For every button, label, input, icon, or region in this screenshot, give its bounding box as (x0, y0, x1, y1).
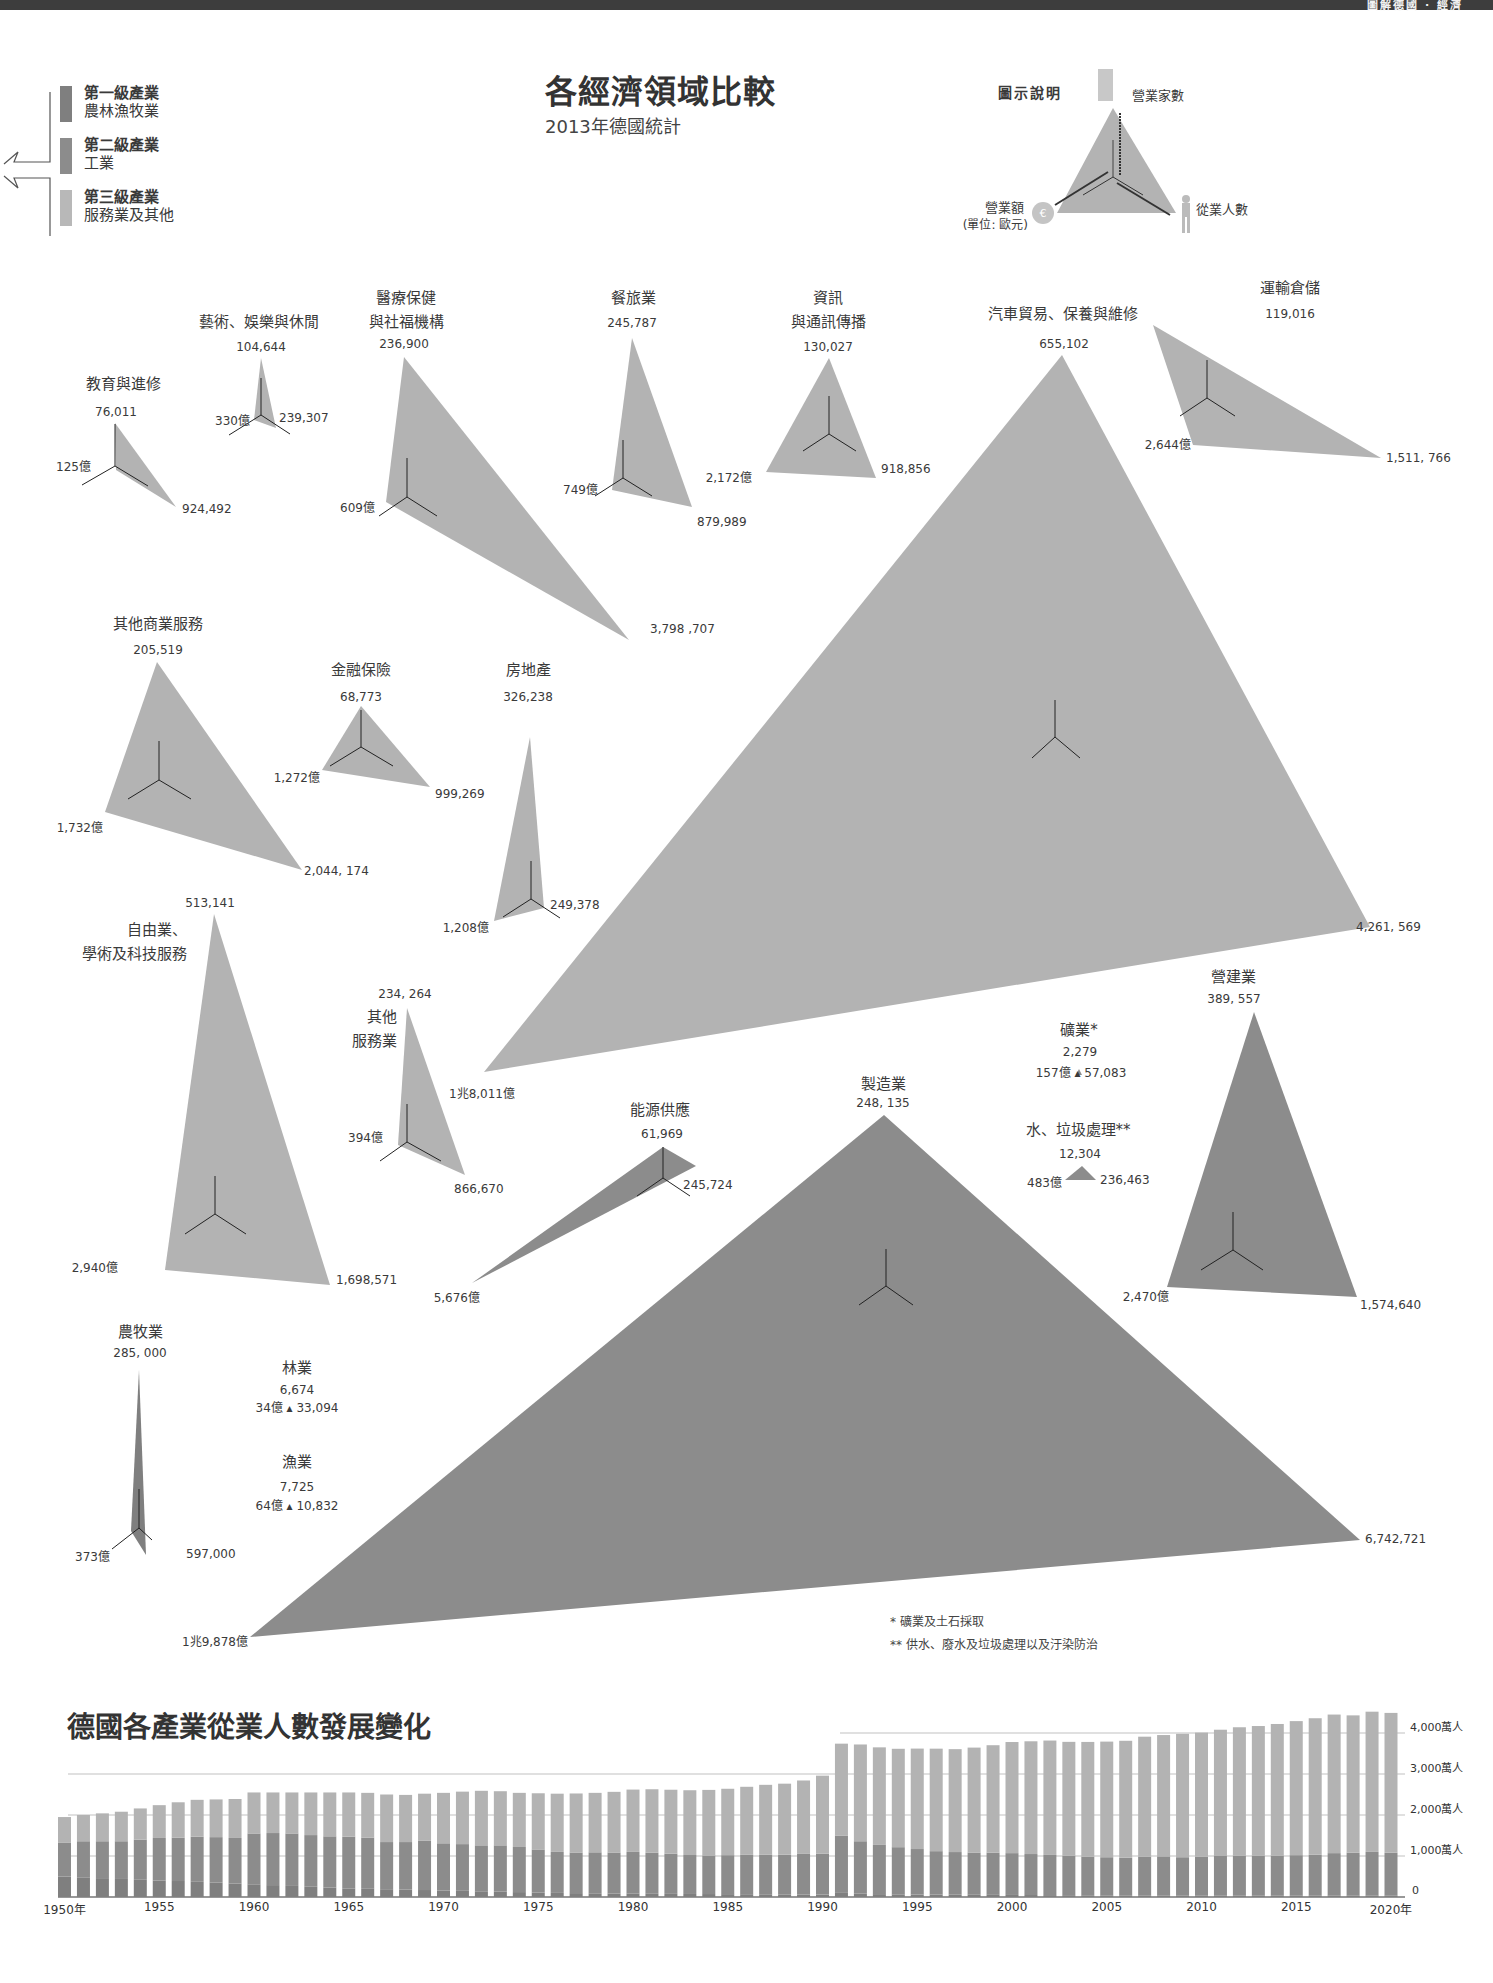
bar-segment (1328, 1715, 1341, 1854)
bar-segment (835, 1744, 848, 1836)
bar-segment (58, 1842, 71, 1876)
bar-segment (702, 1894, 715, 1897)
bar-segment (1290, 1721, 1303, 1855)
bar-segment (172, 1838, 185, 1881)
x-tick-label: 1965 (333, 1900, 364, 1914)
bar-segment (77, 1815, 90, 1841)
bar-segment (342, 1888, 355, 1897)
bar-segment (551, 1794, 564, 1852)
bar-segment (608, 1853, 621, 1894)
bar-segment (437, 1890, 450, 1897)
bar-segment (248, 1833, 261, 1884)
bar-segment (627, 1852, 640, 1894)
bar-segment (266, 1885, 279, 1897)
bar-segment (248, 1792, 261, 1833)
bar-segment (1138, 1737, 1151, 1857)
bar-segment (285, 1886, 298, 1897)
x-tick-label: 1985 (712, 1900, 743, 1914)
bar-segment (437, 1793, 450, 1843)
bar-segment (645, 1853, 658, 1894)
bar-segment (475, 1891, 488, 1897)
bar-segment (1214, 1730, 1227, 1856)
bar-segment (513, 1793, 526, 1847)
bar-segment (456, 1792, 469, 1844)
bar-segment (380, 1889, 393, 1897)
bar-segment (968, 1895, 981, 1897)
bar-segment (456, 1844, 469, 1891)
bar-segment (1347, 1895, 1360, 1897)
bar-segment (418, 1794, 431, 1841)
bar-segment (778, 1784, 791, 1855)
bar-segment (266, 1792, 279, 1833)
bar-segment (1100, 1895, 1113, 1897)
bar-segment (1176, 1734, 1189, 1857)
x-tick-label: 2015 (1281, 1900, 1312, 1914)
bar-segment (551, 1893, 564, 1897)
bar-segment (361, 1793, 374, 1838)
bar-segment (911, 1849, 924, 1895)
bar-segment (664, 1790, 677, 1854)
bar-segment (873, 1894, 886, 1897)
bar-segment (285, 1833, 298, 1885)
bar-segment (1062, 1856, 1075, 1895)
bar-segment (494, 1791, 507, 1845)
bar-segment (551, 1852, 564, 1893)
bar-segment (570, 1793, 583, 1852)
bar-segment (968, 1748, 981, 1853)
y-tick-2000: 2,000萬人 (1410, 1800, 1464, 1816)
bar-segment (1138, 1895, 1151, 1897)
bar-segment (1271, 1856, 1284, 1896)
bar-segment (399, 1890, 412, 1897)
bar-segment (96, 1841, 109, 1878)
bar-segment (58, 1817, 71, 1842)
bar-segment (323, 1792, 336, 1836)
bar-segment (930, 1749, 943, 1852)
bar-segment (1006, 1853, 1019, 1895)
bar-segment (1214, 1895, 1227, 1897)
bar-segment (702, 1856, 715, 1895)
bar-segment (1252, 1856, 1265, 1896)
bar-segment (115, 1812, 128, 1842)
bar-segment (835, 1836, 848, 1893)
bar-segment (229, 1838, 242, 1884)
bar-segment (361, 1889, 374, 1897)
bar-segment (342, 1792, 355, 1836)
bar-segment (740, 1894, 753, 1897)
x-tick-label: 1975 (523, 1900, 554, 1914)
bar-segment (513, 1892, 526, 1897)
bar-segment (1252, 1726, 1265, 1856)
bar-segment (380, 1842, 393, 1889)
bar-segment (683, 1790, 696, 1855)
bar-segment (1309, 1855, 1322, 1896)
bar-segment (1043, 1895, 1056, 1897)
bar-segment (1024, 1741, 1037, 1854)
x-tick-label: 1950年 (43, 1900, 86, 1917)
bar-segment (608, 1792, 621, 1853)
bar-segment (1081, 1857, 1094, 1896)
y-tick-3000: 3,000萬人 (1410, 1759, 1464, 1775)
bar-segment (721, 1855, 734, 1894)
bar-segment (1385, 1713, 1398, 1853)
x-tick-label: 1970 (428, 1900, 459, 1914)
bar-segment (797, 1894, 810, 1897)
bar-segment (1119, 1858, 1132, 1896)
bar-segment (1328, 1895, 1341, 1897)
bar-segment (1233, 1895, 1246, 1897)
bar-segment (683, 1855, 696, 1894)
bar-segment (1081, 1895, 1094, 1897)
bar-segment (58, 1877, 71, 1898)
bar-segment (854, 1894, 867, 1897)
bar-segment (1385, 1853, 1398, 1896)
bar-segment (1271, 1895, 1284, 1897)
x-tick-label: 1995 (902, 1900, 933, 1914)
bar-segment (115, 1879, 128, 1897)
bar-segment (475, 1845, 488, 1891)
bar-segment (96, 1813, 109, 1841)
bar-segment (1347, 1853, 1360, 1896)
bar-segment (191, 1882, 204, 1897)
x-tick-label: 1955 (144, 1900, 175, 1914)
bar-segment (570, 1893, 583, 1897)
bar-segment (304, 1835, 317, 1887)
bar-segment (778, 1855, 791, 1895)
bar-segment (759, 1894, 772, 1897)
